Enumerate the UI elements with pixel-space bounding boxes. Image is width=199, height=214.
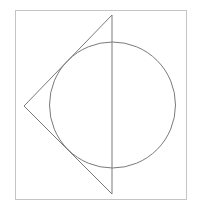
diagram-frame bbox=[16, 11, 187, 200]
geometry-diagram bbox=[0, 0, 199, 214]
triangle-shape bbox=[24, 15, 112, 194]
